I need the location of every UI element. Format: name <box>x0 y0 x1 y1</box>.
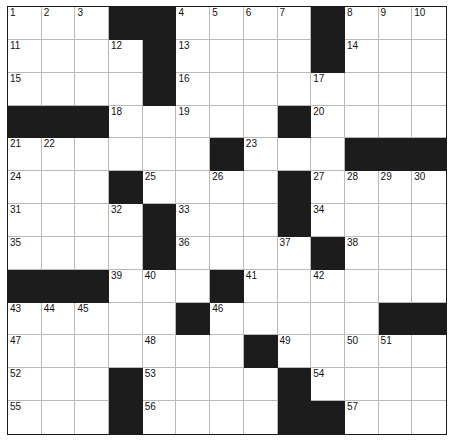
grid-cell[interactable] <box>176 171 210 204</box>
grid-cell[interactable]: 23 <box>244 138 278 171</box>
grid-cell[interactable] <box>109 138 143 171</box>
grid-cell[interactable]: 53 <box>143 368 177 401</box>
grid-cell[interactable]: 48 <box>143 335 177 368</box>
grid-cell[interactable] <box>176 138 210 171</box>
grid-cell[interactable]: 20 <box>311 106 345 139</box>
grid-cell[interactable]: 26 <box>210 171 244 204</box>
grid-cell[interactable]: 36 <box>176 237 210 270</box>
grid-cell[interactable] <box>75 368 109 401</box>
grid-cell[interactable] <box>42 171 76 204</box>
grid-cell[interactable] <box>345 303 379 336</box>
grid-cell[interactable]: 1 <box>8 7 42 40</box>
grid-cell[interactable]: 2 <box>42 7 76 40</box>
grid-cell[interactable] <box>379 237 413 270</box>
grid-cell[interactable]: 40 <box>143 270 177 303</box>
grid-cell[interactable] <box>42 335 76 368</box>
grid-cell[interactable] <box>75 401 109 434</box>
grid-cell[interactable] <box>345 368 379 401</box>
grid-cell[interactable] <box>311 303 345 336</box>
grid-cell[interactable]: 15 <box>8 73 42 106</box>
grid-cell[interactable] <box>42 73 76 106</box>
grid-cell[interactable] <box>75 204 109 237</box>
grid-cell[interactable] <box>75 40 109 73</box>
grid-cell[interactable]: 32 <box>109 204 143 237</box>
grid-cell[interactable] <box>345 106 379 139</box>
grid-cell[interactable]: 43 <box>8 303 42 336</box>
grid-cell[interactable] <box>75 335 109 368</box>
grid-cell[interactable] <box>412 368 446 401</box>
grid-cell[interactable] <box>278 138 312 171</box>
crossword-grid[interactable]: 1234567891011121314151617181920212223242… <box>7 6 447 435</box>
grid-cell[interactable]: 22 <box>42 138 76 171</box>
grid-cell[interactable] <box>345 270 379 303</box>
grid-cell[interactable] <box>109 335 143 368</box>
grid-cell[interactable]: 37 <box>278 237 312 270</box>
grid-cell[interactable] <box>42 40 76 73</box>
grid-cell[interactable] <box>311 335 345 368</box>
grid-cell[interactable]: 54 <box>311 368 345 401</box>
grid-cell[interactable] <box>412 73 446 106</box>
grid-cell[interactable] <box>244 368 278 401</box>
grid-cell[interactable] <box>379 368 413 401</box>
grid-cell[interactable] <box>244 204 278 237</box>
grid-cell[interactable] <box>176 335 210 368</box>
grid-cell[interactable]: 21 <box>8 138 42 171</box>
grid-cell[interactable]: 38 <box>345 237 379 270</box>
grid-cell[interactable]: 31 <box>8 204 42 237</box>
grid-cell[interactable]: 14 <box>345 40 379 73</box>
grid-cell[interactable] <box>244 171 278 204</box>
grid-cell[interactable]: 46 <box>210 303 244 336</box>
grid-cell[interactable] <box>176 270 210 303</box>
grid-cell[interactable] <box>379 401 413 434</box>
grid-cell[interactable] <box>75 73 109 106</box>
grid-cell[interactable]: 52 <box>8 368 42 401</box>
grid-cell[interactable]: 25 <box>143 171 177 204</box>
grid-cell[interactable] <box>379 204 413 237</box>
grid-cell[interactable]: 49 <box>278 335 312 368</box>
grid-cell[interactable]: 30 <box>412 171 446 204</box>
grid-cell[interactable] <box>412 270 446 303</box>
grid-cell[interactable]: 27 <box>311 171 345 204</box>
grid-cell[interactable]: 33 <box>176 204 210 237</box>
grid-cell[interactable] <box>379 270 413 303</box>
grid-cell[interactable] <box>75 237 109 270</box>
grid-cell[interactable]: 17 <box>311 73 345 106</box>
grid-cell[interactable] <box>75 138 109 171</box>
grid-cell[interactable] <box>176 368 210 401</box>
grid-cell[interactable] <box>412 106 446 139</box>
grid-cell[interactable] <box>412 40 446 73</box>
grid-cell[interactable]: 19 <box>176 106 210 139</box>
grid-cell[interactable]: 41 <box>244 270 278 303</box>
grid-cell[interactable] <box>210 73 244 106</box>
grid-cell[interactable] <box>210 237 244 270</box>
grid-cell[interactable] <box>278 40 312 73</box>
grid-cell[interactable]: 12 <box>109 40 143 73</box>
grid-cell[interactable]: 11 <box>8 40 42 73</box>
grid-cell[interactable] <box>42 368 76 401</box>
grid-cell[interactable] <box>244 73 278 106</box>
grid-cell[interactable]: 3 <box>75 7 109 40</box>
grid-cell[interactable] <box>210 40 244 73</box>
grid-cell[interactable]: 9 <box>379 7 413 40</box>
grid-cell[interactable]: 10 <box>412 7 446 40</box>
grid-cell[interactable] <box>42 204 76 237</box>
grid-cell[interactable] <box>176 401 210 434</box>
grid-cell[interactable] <box>412 204 446 237</box>
grid-cell[interactable]: 5 <box>210 7 244 40</box>
grid-cell[interactable] <box>412 237 446 270</box>
grid-cell[interactable] <box>311 138 345 171</box>
grid-cell[interactable] <box>143 138 177 171</box>
grid-cell[interactable] <box>143 303 177 336</box>
grid-cell[interactable]: 18 <box>109 106 143 139</box>
grid-cell[interactable]: 44 <box>42 303 76 336</box>
grid-cell[interactable]: 55 <box>8 401 42 434</box>
grid-cell[interactable]: 6 <box>244 7 278 40</box>
grid-cell[interactable]: 16 <box>176 73 210 106</box>
grid-cell[interactable] <box>244 237 278 270</box>
grid-cell[interactable] <box>42 237 76 270</box>
grid-cell[interactable] <box>109 303 143 336</box>
grid-cell[interactable]: 8 <box>345 7 379 40</box>
grid-cell[interactable] <box>210 106 244 139</box>
grid-cell[interactable] <box>379 106 413 139</box>
grid-cell[interactable]: 7 <box>278 7 312 40</box>
